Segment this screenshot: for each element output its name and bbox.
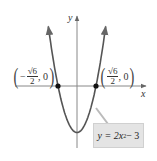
x-axis-label: x	[141, 89, 145, 99]
fraction: √6 2	[107, 67, 118, 86]
callout-leader	[96, 108, 108, 124]
fraction: √6 2	[27, 67, 38, 86]
right-intercept-label: ( √6 2 , 0 )	[99, 64, 136, 88]
left-intercept-point	[55, 83, 60, 88]
left-intercept-label: ( − √6 2 , 0 )	[12, 64, 56, 88]
equation-callout: y = 2x2 − 3	[93, 123, 144, 148]
y-axis-label: y	[68, 13, 72, 23]
right-intercept-point	[93, 83, 98, 88]
